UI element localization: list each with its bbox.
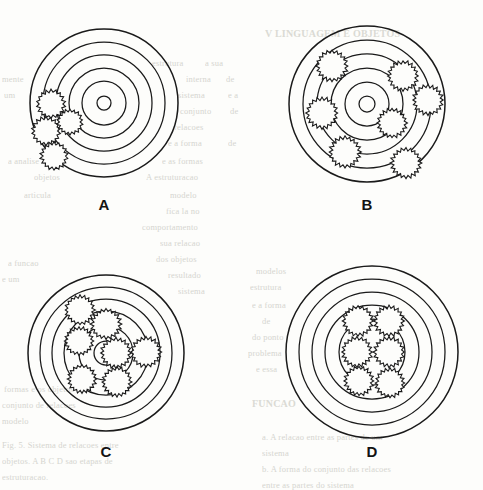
- gear-icon: [374, 305, 405, 336]
- ring: [56, 55, 152, 151]
- panel-label-d: D: [357, 443, 387, 460]
- gears-c: [64, 295, 161, 397]
- gear-icon: [344, 366, 374, 395]
- gear-icon: [329, 136, 361, 168]
- gear-icon: [377, 108, 407, 137]
- panel-a: [30, 29, 178, 177]
- panel-label-b: B: [352, 196, 382, 213]
- gear-icon: [131, 336, 162, 367]
- gear-icon: [342, 336, 373, 367]
- panel-label-c: C: [91, 443, 121, 460]
- panels-root: [28, 26, 458, 438]
- ring: [359, 96, 375, 112]
- panel-d: [286, 266, 458, 438]
- gear-icon: [413, 84, 443, 115]
- gear-icon: [102, 367, 132, 397]
- panel-c: [28, 275, 184, 431]
- ring: [97, 96, 111, 110]
- panel-b: [289, 26, 445, 182]
- gear-icon: [342, 306, 373, 336]
- gear-icon: [101, 337, 132, 369]
- gear-icon: [375, 368, 404, 398]
- gears-a: [32, 89, 83, 170]
- gear-icon: [373, 337, 404, 368]
- panel-label-a: A: [89, 196, 119, 213]
- ring: [82, 81, 126, 125]
- gear-icon: [306, 97, 338, 129]
- gear-icon: [67, 365, 96, 394]
- gear-icon: [37, 89, 66, 118]
- gear-icon: [65, 295, 95, 325]
- gear-icon: [390, 148, 422, 179]
